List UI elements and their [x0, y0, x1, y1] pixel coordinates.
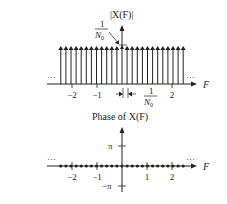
phase-sample-dot	[105, 164, 108, 167]
magnitude-tick-label: −2	[67, 90, 77, 100]
phase-ellipsis-right: ···	[186, 154, 195, 164]
phase-sample-dot	[126, 164, 129, 167]
phase-sample-dot	[64, 164, 67, 167]
phase-label-neg-pi: −π	[102, 181, 112, 191]
phase-sample-dot	[115, 164, 118, 167]
phase-tick-label: 1	[145, 172, 150, 182]
phase-tick-label: −1	[92, 172, 102, 182]
phase-ellipsis-left: ···	[47, 154, 56, 164]
phase-sample-dot	[100, 164, 103, 167]
spacing-label-numerator: 1	[149, 86, 154, 96]
phase-sample-dot	[95, 164, 98, 167]
frequency-domain-diagram: ··· ··· F |X(F)| 1 N0 −2−12 1 N0 Phase o…	[0, 0, 227, 204]
height-label-denominator: N0	[94, 30, 104, 41]
phase-sample-dot	[161, 164, 164, 167]
magnitude-plot: ··· ··· F |X(F)| 1 N0 −2−12 1 N0	[47, 9, 210, 108]
phase-sample-dot	[141, 164, 144, 167]
magnitude-ellipsis-right: ···	[186, 72, 195, 82]
phase-tick-label: 2	[170, 172, 175, 182]
phase-sample-dot	[131, 164, 134, 167]
phase-sample-dot	[182, 164, 185, 167]
phase-sample-dot	[177, 164, 180, 167]
phase-sample-dot	[151, 164, 154, 167]
phase-tick-label: −2	[67, 172, 77, 182]
phase-sample-dot	[120, 164, 123, 167]
phase-sample-dot	[136, 164, 139, 167]
magnitude-tick-label: −1	[92, 90, 102, 100]
phase-x-label: F	[202, 161, 210, 172]
phase-sample-dot	[90, 164, 93, 167]
phase-sample-dot	[166, 164, 169, 167]
impulse-arrow-center	[120, 45, 124, 49]
magnitude-tick-labels: −2−12	[67, 84, 174, 100]
phase-label-pi: π	[108, 141, 113, 151]
height-label-numerator: 1	[100, 19, 105, 29]
magnitude-ellipsis-left: ···	[47, 72, 56, 82]
phase-sample-dot	[110, 164, 113, 167]
magnitude-tick-label: 2	[170, 90, 175, 100]
spacing-label-denominator: N0	[143, 97, 153, 108]
phase-sample-dot	[85, 164, 88, 167]
phase-sample-dot	[59, 164, 62, 167]
phase-sample-dot	[75, 164, 78, 167]
phase-title: Phase of X(F)	[92, 111, 148, 123]
phase-sample-dot	[146, 164, 149, 167]
phase-plot: Phase of X(F) π −π ··· ··· F −2−112	[47, 111, 210, 192]
magnitude-x-label: F	[202, 79, 210, 90]
phase-sample-dot	[156, 164, 159, 167]
phase-sample-dot	[80, 164, 83, 167]
height-leader-line	[109, 32, 118, 43]
magnitude-title: |X(F)|	[110, 9, 133, 21]
